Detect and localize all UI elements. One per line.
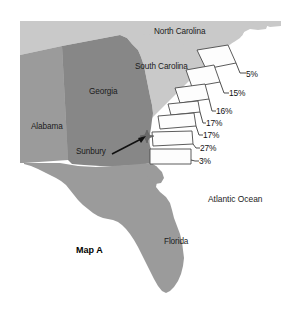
callout-label-2: 15% xyxy=(229,89,245,97)
leader-line-5 xyxy=(196,126,203,135)
region-georgia-shape xyxy=(62,35,153,166)
callout-label-6: 27% xyxy=(200,144,216,152)
leader-line-6 xyxy=(193,144,200,148)
map-figure: North Carolina South Carolina Georgia Al… xyxy=(0,0,281,312)
callout-box-6[interactable] xyxy=(152,131,193,146)
callout-box-5[interactable] xyxy=(158,113,196,129)
map-graphic xyxy=(0,0,281,312)
callout-label-3: 16% xyxy=(216,107,232,115)
callout-label-4: 17% xyxy=(206,119,222,127)
region-alabama-shape xyxy=(20,46,68,163)
map-caption: Map A xyxy=(76,246,103,255)
callout-box-7[interactable] xyxy=(150,149,191,164)
callout-box-4[interactable] xyxy=(168,101,200,115)
callout-label-7: 3% xyxy=(199,157,211,165)
leader-line-1 xyxy=(236,63,246,73)
leader-line-3 xyxy=(209,99,216,111)
leader-line-2 xyxy=(220,82,229,93)
callout-label-5: 17% xyxy=(203,131,219,139)
callout-label-1: 5% xyxy=(246,70,258,78)
water-label-atlantic-ocean: Atlantic Ocean xyxy=(208,195,262,203)
leader-line-7 xyxy=(191,160,199,161)
